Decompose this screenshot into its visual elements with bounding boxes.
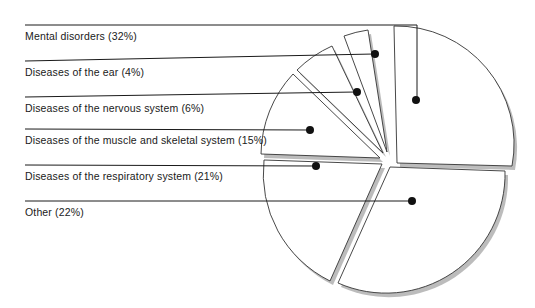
callout-label-respiratory-system: Diseases of the respiratory system (21%) <box>25 170 223 182</box>
slice-mental-disorders[interactable] <box>394 26 514 166</box>
leader-dot-mental-disorders <box>412 96 420 104</box>
callout-label-mental-disorders: Mental disorders (32%) <box>25 30 137 42</box>
leader-dot-respiratory-system <box>312 162 320 170</box>
pie-chart-figure: Mental disorders (32%) Diseases of the e… <box>0 0 535 308</box>
callout-label-muscle-skeletal-system: Diseases of the muscle and skeletal syst… <box>25 134 267 146</box>
leader-dot-nervous-system <box>353 88 361 96</box>
pie-slices-group <box>261 26 517 297</box>
leader-dot-other <box>408 197 416 205</box>
leader-dot-ear <box>371 50 379 58</box>
leader-dot-muscle-skeletal-system <box>306 126 314 134</box>
callout-label-other: Other (22%) <box>25 206 84 218</box>
callout-label-nervous-system: Diseases of the nervous system (6%) <box>25 102 204 114</box>
callout-label-ear: Diseases of the ear (4%) <box>25 66 144 78</box>
